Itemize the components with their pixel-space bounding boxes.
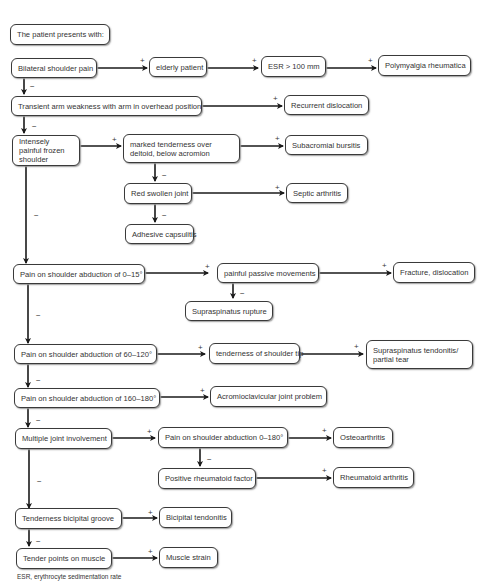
edge-sign-minus: −	[36, 377, 41, 385]
edge-sign-plus: +	[252, 57, 257, 65]
node-subacromial-bursitis: Subacromial bursitis	[285, 135, 368, 155]
edge-sign-plus: +	[273, 95, 278, 103]
node-abduction-0-180: Pain on shoulder abduction 0–180°	[158, 427, 288, 448]
node-positive-rheumatoid-factor: Positive rheumatoid factor	[158, 468, 256, 489]
edge-sign-minus: −	[162, 172, 167, 180]
edge-sign-plus: +	[322, 467, 327, 475]
edge-sign-minus: −	[162, 212, 167, 220]
edge-sign-plus: +	[147, 428, 152, 436]
node-elderly-patient: elderly patient	[149, 57, 207, 77]
edge-sign-plus: +	[205, 263, 210, 271]
flowchart-canvas: + + + − + − + + − + − − + + − − + + − + …	[0, 0, 480, 584]
node-deltoid-tenderness: marked tenderness over deltoid, below ac…	[123, 134, 240, 163]
node-tender-points-on-muscle: Tender points on muscle	[16, 548, 112, 569]
node-adhesive-capsulitis: Adhesive capsulitis	[125, 224, 194, 244]
edge-sign-minus: −	[36, 538, 41, 546]
node-rheumatoid-arthritis: Rheumatoid arthritis	[333, 467, 414, 488]
node-red-swollen-joint: Red swollen joint	[124, 183, 192, 204]
node-shoulder-tip-tenderness: tenderness of shoulder tip	[209, 343, 300, 364]
node-acromioclavicular-joint-problem: Acromioclavicular joint problem	[210, 386, 327, 407]
node-bilateral-shoulder-pain: Bilateral shoulder pain	[11, 58, 97, 78]
edge-sign-plus: +	[198, 344, 203, 352]
edge-sign-plus: +	[275, 135, 280, 143]
edge-sign-minus: −	[34, 212, 39, 220]
edge-sign-plus: +	[354, 343, 359, 351]
edge-sign-plus: +	[140, 57, 145, 65]
node-bicipital-tendonitis: Bicipital tendonitis	[159, 507, 232, 528]
node-painful-passive-movements: painful passive movements	[217, 263, 319, 283]
edge-sign-plus: +	[148, 509, 153, 517]
node-abduction-60-120: Pain on shoulder abduction of 60–120°	[14, 344, 157, 364]
edge-sign-plus: +	[382, 262, 387, 270]
edge-sign-minus: −	[37, 478, 42, 486]
node-recurrent-dislocation: Recurrent dislocation	[284, 95, 369, 115]
edge-sign-plus: +	[368, 57, 373, 65]
node-osteoarthritis: Osteoarthritis	[333, 427, 393, 448]
node-polymyalgia-rheumatica: Polymyalgia rheumatica	[378, 55, 471, 76]
node-frozen-shoulder: Intensely painful frozen shoulder	[12, 135, 80, 166]
node-septic-arthritis: Septic arthritis	[286, 183, 348, 203]
edge-sign-plus: +	[200, 387, 205, 395]
edge-sign-plus: +	[148, 548, 153, 556]
edge-sign-minus: −	[207, 456, 212, 464]
edge-sign-minus: −	[36, 417, 41, 425]
node-esr: ESR > 100 mm	[261, 56, 326, 77]
edge-sign-minus: −	[240, 290, 245, 298]
node-transient-arm-weakness: Transient arm weakness with arm in overh…	[11, 96, 202, 116]
edge-sign-minus: −	[30, 83, 35, 91]
node-multiple-joint-involvement: Multiple joint involvement	[15, 428, 112, 449]
node-fracture-dislocation: Fracture, dislocation	[393, 262, 475, 283]
node-abduction-160-180: Pain on shoulder abduction of 160–180°	[14, 388, 160, 408]
start-node: The patient presents with:	[10, 24, 110, 45]
edge-sign-plus: +	[112, 136, 117, 144]
node-supraspinatus-tendonitis: Supraspinatus tendonitis/ partial tear	[366, 340, 473, 369]
edge-sign-plus: +	[322, 427, 327, 435]
node-abduction-0-15: Pain on shoulder abduction of 0–15°	[13, 264, 145, 284]
edge-sign-minus: −	[32, 123, 37, 131]
node-supraspinatus-rupture: Supraspinatus rupture	[185, 301, 273, 321]
edge-sign-plus: +	[275, 184, 280, 192]
node-tenderness-bicipital-groove: Tenderness bicipital groove	[15, 508, 122, 529]
edge-sign-minus: −	[36, 312, 41, 320]
node-muscle-strain: Muscle strain	[159, 547, 218, 568]
footnote: ESR, erythrocyte sedimentation rate	[17, 573, 121, 580]
